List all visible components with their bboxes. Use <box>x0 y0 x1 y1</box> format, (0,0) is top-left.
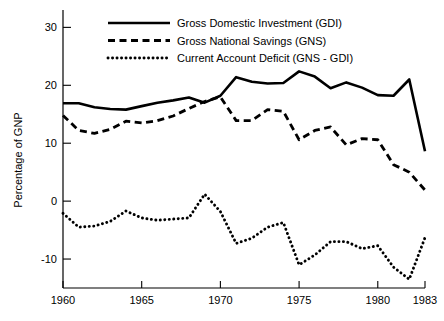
x-axis-ticks: 196019651970197519801983 <box>51 281 437 306</box>
x-tick-label: 1983 <box>413 294 437 306</box>
x-tick-label: 1970 <box>208 294 232 306</box>
x-tick-label: 1980 <box>366 294 390 306</box>
chart-legend: Gross Domestic Investment (GDI)Gross Nat… <box>108 17 353 64</box>
y-axis-ticks: -100102030 <box>41 21 71 265</box>
legend-label-2: Current Account Deficit (GNS - GDI) <box>177 52 353 64</box>
x-tick-label: 1960 <box>51 294 75 306</box>
y-tick-label: 10 <box>45 137 57 149</box>
y-tick-label: -10 <box>41 253 57 265</box>
legend-label-0: Gross Domestic Investment (GDI) <box>177 17 342 29</box>
x-tick-label: 1975 <box>287 294 311 306</box>
x-tick-label: 1965 <box>129 294 153 306</box>
series-line-1 <box>63 97 425 190</box>
y-tick-label: 20 <box>45 79 57 91</box>
y-axis-title: Percentage of GNP <box>12 112 24 207</box>
y-tick-label: 30 <box>45 21 57 33</box>
chart-series <box>63 71 425 279</box>
chart-container: -100102030 196019651970197519801983 Perc… <box>0 0 444 321</box>
series-line-0 <box>63 71 425 151</box>
line-chart: -100102030 196019651970197519801983 Perc… <box>0 0 444 321</box>
y-tick-label: 0 <box>51 195 57 207</box>
series-line-2 <box>63 194 425 279</box>
legend-label-1: Gross National Savings (GNS) <box>177 35 326 47</box>
